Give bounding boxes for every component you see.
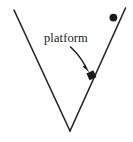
platform-block [86,70,96,80]
physics-wedge-diagram: platform [0,0,133,142]
pointer-arrow-curve [71,47,86,66]
pointer-arrowhead [83,65,90,72]
platform-label: platform [44,32,88,45]
diagram-canvas [0,0,133,142]
ball-marker [110,14,118,22]
left-incline-line [14,10,70,131]
right-incline-line [70,8,126,131]
